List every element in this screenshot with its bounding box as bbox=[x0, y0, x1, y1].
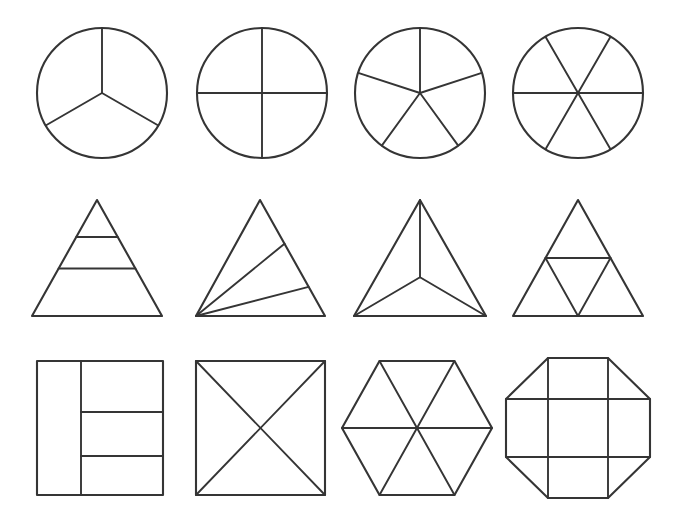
shape-square-column-and-bands[interactable] bbox=[37, 361, 163, 495]
triangle-outline bbox=[32, 200, 162, 316]
shape-triangle-oblique-bands[interactable] bbox=[196, 200, 325, 316]
shape-circle-thirds[interactable] bbox=[37, 28, 167, 158]
shape-circle-fifths[interactable] bbox=[355, 28, 485, 158]
shape-circle-quarters[interactable] bbox=[197, 28, 327, 158]
worksheet-canvas bbox=[0, 0, 678, 519]
shape-triangle-medial-quarters[interactable] bbox=[513, 200, 643, 316]
shape-square-diagonals[interactable] bbox=[196, 361, 325, 495]
shape-hexagon-sixths[interactable] bbox=[342, 361, 492, 495]
square-outline bbox=[37, 361, 163, 495]
shape-triangle-centroid-thirds[interactable] bbox=[354, 200, 486, 316]
octagon-outline bbox=[506, 358, 650, 498]
shapes-diagram bbox=[0, 0, 678, 519]
shape-triangle-horizontal-bands[interactable] bbox=[32, 200, 162, 316]
shape-circle-sixths[interactable] bbox=[513, 28, 643, 158]
shape-octagon-grid[interactable] bbox=[506, 358, 650, 498]
